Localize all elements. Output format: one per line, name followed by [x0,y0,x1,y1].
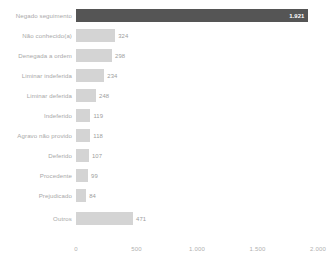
category-label: Negado seguimento [0,12,72,19]
bar-wrapper: 324 [76,26,128,45]
category-label: Denegada a ordem [0,52,72,59]
x-tick-label: 0 [74,246,78,252]
bar [76,29,115,42]
table-row: Liminar deferida 248 [0,86,331,105]
value-label: 1.921 [289,13,304,19]
bar-wrapper: 234 [76,66,117,85]
bar-wrapper: 248 [76,86,109,105]
value-label: 298 [115,53,125,59]
value-label: 119 [93,113,103,119]
value-label: 118 [93,133,103,139]
value-label: 471 [136,216,146,222]
category-label: Procedente [0,172,72,179]
value-label: 99 [91,173,98,179]
category-label: Agravo não provido [0,132,72,139]
table-row: Negado seguimento 1.921 [0,6,331,25]
table-row: Prejudicado 84 [0,186,331,205]
bar [76,69,104,82]
table-row: Liminar indeferida 234 [0,66,331,85]
value-label: 107 [92,153,102,159]
bar-wrapper: 118 [76,126,103,145]
value-label: 248 [99,93,109,99]
bar [76,149,89,162]
x-tick-label: 1.000 [189,246,205,252]
x-tick-label: 1.500 [249,246,265,252]
category-label: Outros [0,215,72,222]
bar [76,129,90,142]
value-label: 84 [89,193,96,199]
category-label: Prejudicado [0,192,72,199]
bar-wrapper: 107 [76,146,102,165]
table-row: Procedente 99 [0,166,331,185]
bar [76,109,90,122]
value-label: 324 [118,33,128,39]
bar-chart: Negado seguimento 1.921 Não conhecido(a)… [0,0,331,266]
bar-wrapper: 298 [76,46,125,65]
value-label: 234 [107,73,117,79]
table-row: Agravo não provido 118 [0,126,331,145]
table-row: Deferido 107 [0,146,331,165]
category-label: Deferido [0,152,72,159]
table-row: Indeferido 119 [0,106,331,125]
category-label: Indeferido [0,112,72,119]
bar-wrapper: 84 [76,186,96,205]
table-row: Denegada a ordem 298 [0,46,331,65]
category-label: Não conhecido(a) [0,32,72,39]
x-axis: 0 500 1.000 1.500 2.000 [76,240,318,260]
chart-rows: Negado seguimento 1.921 Não conhecido(a)… [0,0,331,232]
bar-wrapper: 99 [76,166,98,185]
table-row: Outros 471 [0,209,331,228]
bar [76,89,96,102]
bar-holder: 1.921 [76,9,308,22]
bar-wrapper: 119 [76,106,103,125]
bar [76,9,308,22]
bar [76,169,88,182]
x-tick-label: 500 [131,246,142,252]
bar [76,49,112,62]
bar-wrapper: 471 [76,209,146,228]
bar [76,212,133,225]
bar [76,189,86,202]
category-label: Liminar indeferida [0,72,72,79]
category-label: Liminar deferida [0,92,72,99]
table-row: Não conhecido(a) 324 [0,26,331,45]
bar-wrapper: 1.921 [76,6,308,25]
x-tick-label: 2.000 [310,246,326,252]
